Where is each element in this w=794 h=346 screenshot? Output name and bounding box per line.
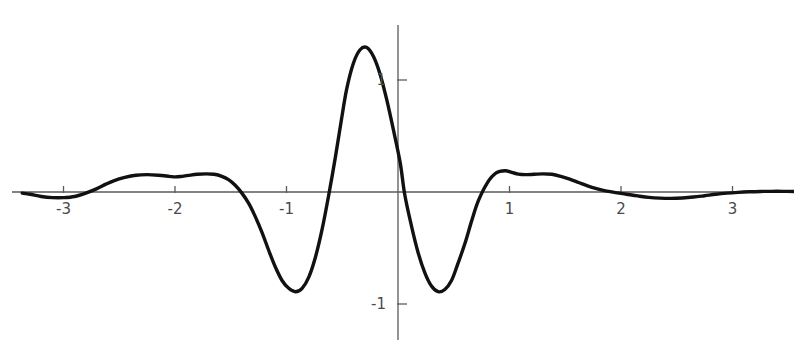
plot-canvas: -3-2-1123 1-1 (0, 0, 794, 346)
y-tick-label: -1 (371, 295, 386, 313)
x-tick-label: -3 (56, 200, 71, 218)
wavelet-plot-figure: -3-2-1123 1-1 (0, 0, 794, 346)
data-series-group (22, 47, 794, 292)
axes-group (12, 25, 788, 340)
x-tick-label: 1 (505, 200, 515, 218)
y-tick-label: 1 (376, 71, 386, 89)
x-axis-tick-labels: -3-2-1123 (56, 200, 737, 218)
x-tick-label: 3 (728, 200, 738, 218)
wavelet-curve-path (22, 47, 794, 292)
x-tick-label: -1 (279, 200, 294, 218)
x-tick-label: 2 (616, 200, 626, 218)
x-tick-label: -2 (168, 200, 183, 218)
